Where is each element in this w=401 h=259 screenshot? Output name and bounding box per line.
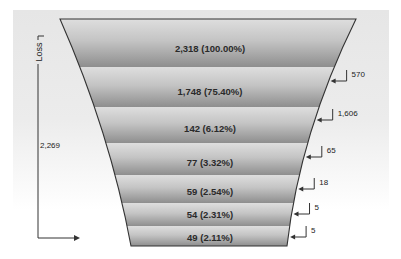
loss-axis-title-text: Loss bbox=[34, 42, 44, 62]
funnel-chart: 2,318 (100.00%)1,748 (75.40%)142 (6.12%)… bbox=[0, 0, 401, 259]
loss-arrow-icon bbox=[294, 212, 299, 217]
loss-value-label: 1,606 bbox=[338, 109, 359, 118]
loss-axis-arrow-icon bbox=[74, 235, 80, 241]
segment-value-label: 54 (2.31%) bbox=[187, 209, 233, 220]
loss-value-label: 5 bbox=[315, 203, 320, 212]
segment-value-label: 77 (3.32%) bbox=[187, 157, 233, 168]
loss-arrow-icon bbox=[290, 235, 295, 240]
loss-value-label: 5 bbox=[311, 226, 316, 235]
loss-value-label: 65 bbox=[327, 146, 336, 155]
segment-value-label: 1,748 (75.40%) bbox=[178, 86, 243, 97]
segment-value-label: 59 (2.54%) bbox=[187, 186, 233, 197]
segment-value-label: 49 (2.11%) bbox=[187, 232, 233, 243]
loss-value-label: 570 bbox=[352, 70, 366, 79]
total-loss-label: 2,269 bbox=[40, 141, 61, 150]
loss-value-label: 18 bbox=[319, 178, 328, 187]
segment-value-label: 2,318 (100.00%) bbox=[175, 43, 245, 54]
segment-value-label: 142 (6.12%) bbox=[184, 123, 236, 134]
